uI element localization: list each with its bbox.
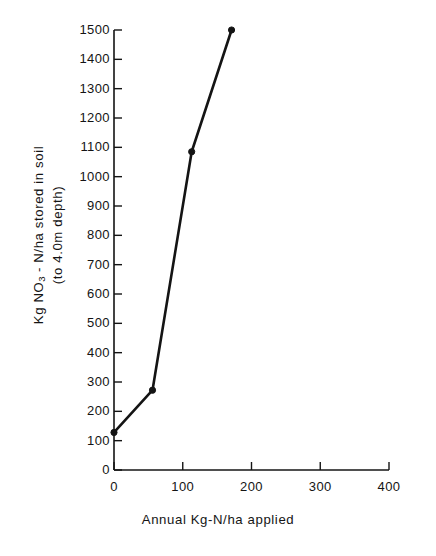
chart-figure: Kg NO3 - N/ha stored in soil (to 4.0m de… — [0, 0, 436, 556]
data-point-marker — [228, 27, 234, 33]
data-point-marker — [149, 387, 155, 393]
plot-area — [0, 0, 436, 556]
series-line — [114, 30, 232, 432]
data-point-marker — [111, 429, 117, 435]
data-series — [111, 27, 235, 436]
data-point-marker — [189, 149, 195, 155]
axes — [114, 30, 389, 470]
